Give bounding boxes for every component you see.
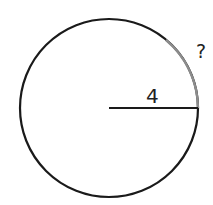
radius-label: 4 [146,86,159,106]
arc-length-label: ? [196,42,206,61]
circle-diagram [0,0,213,205]
highlighted-arc [166,40,198,108]
